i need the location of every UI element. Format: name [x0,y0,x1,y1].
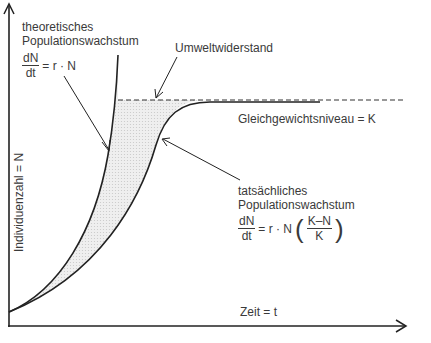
theoretical-label: theoretisches Populationswachstum [22,20,139,48]
theoretical-pointer [64,76,109,150]
actual-pointer [163,139,240,180]
actual-label: tatsächliches Populationswachstum [238,184,355,212]
equilibrium-label: Gleichgewichtsniveau = K [238,112,376,126]
x-axis-label: Zeit = t [240,305,277,319]
resistance-label: Umweltwiderstand [175,41,273,55]
y-axis-label: Individuenzahl = N [12,153,26,252]
environmental-resistance-area [9,55,205,312]
theoretical-label-line1: theoretisches [22,20,139,34]
theoretical-formula: dN dt = r · N [22,51,76,80]
actual-label-line1: tatsächliches [238,184,355,198]
theoretical-label-line2: Populationswachstum [22,34,139,48]
theoretical-fraction: dN dt [22,51,39,80]
resistance-pointer-arrow-icon [155,89,163,98]
actual-formula: dN dt = r · N ( K–N K ) [238,214,344,243]
resistance-pointer [156,57,177,98]
actual-label-line2: Populationswachstum [238,198,355,212]
